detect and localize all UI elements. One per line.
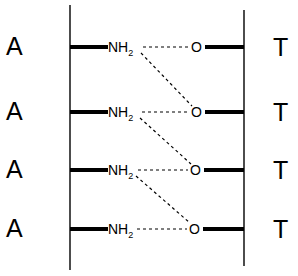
right-base-label: T [273,33,288,61]
hydrogen-bond-line [136,176,190,223]
nh2-group-label: NH2 [108,221,133,240]
right-base-label: T [273,98,288,126]
left-base-label: A [6,32,23,60]
base-pair-diagram: ANH2OTANH2OTANH2OTANH2OT [0,0,298,276]
left-base-label: A [6,155,23,183]
left-base-label: A [6,97,23,125]
base-pair-row: ANH2OT [6,214,288,243]
left-base-label: A [6,214,23,242]
base-pair-rows: ANH2OTANH2OTANH2OTANH2OT [6,32,288,243]
right-base-label: T [273,215,288,243]
base-pair-row: ANH2OT [6,32,288,61]
hydrogen-bond-line [140,118,191,164]
oxygen-group-label: O [190,162,201,178]
nh2-group-label: NH2 [108,162,133,181]
oxygen-group-label: O [191,104,202,120]
oxygen-group-label: O [191,39,202,55]
base-pair-row: ANH2OT [6,97,288,126]
nh2-group-label: NH2 [108,104,133,123]
nh2-group-label: NH2 [108,39,133,58]
hydrogen-bond-line [141,53,192,106]
oxygen-group-label: O [189,221,200,237]
right-base-label: T [273,156,288,184]
base-pair-row: ANH2OT [6,155,288,184]
hydrogen-bonds [136,47,192,229]
